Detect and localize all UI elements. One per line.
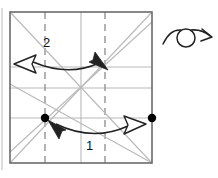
reference-dot-right bbox=[148, 114, 156, 122]
fold-arrow-1-head-left bbox=[48, 120, 66, 139]
fold-arrow-1-head-right bbox=[124, 116, 146, 134]
fold-arrow-1 bbox=[48, 116, 146, 139]
fold-arrow-2-arc bbox=[33, 62, 99, 70]
turn-over-loop-icon bbox=[177, 29, 195, 47]
crease-lines bbox=[10, 12, 152, 163]
step-label-2: 2 bbox=[43, 36, 50, 49]
fold-arrow-2 bbox=[14, 52, 108, 73]
turn-over-symbol bbox=[163, 29, 212, 47]
step-label-1: 1 bbox=[86, 139, 93, 152]
reference-dot-left bbox=[41, 114, 49, 122]
fold-arrow-2-head-left bbox=[14, 55, 36, 73]
origami-diagram bbox=[0, 0, 218, 178]
